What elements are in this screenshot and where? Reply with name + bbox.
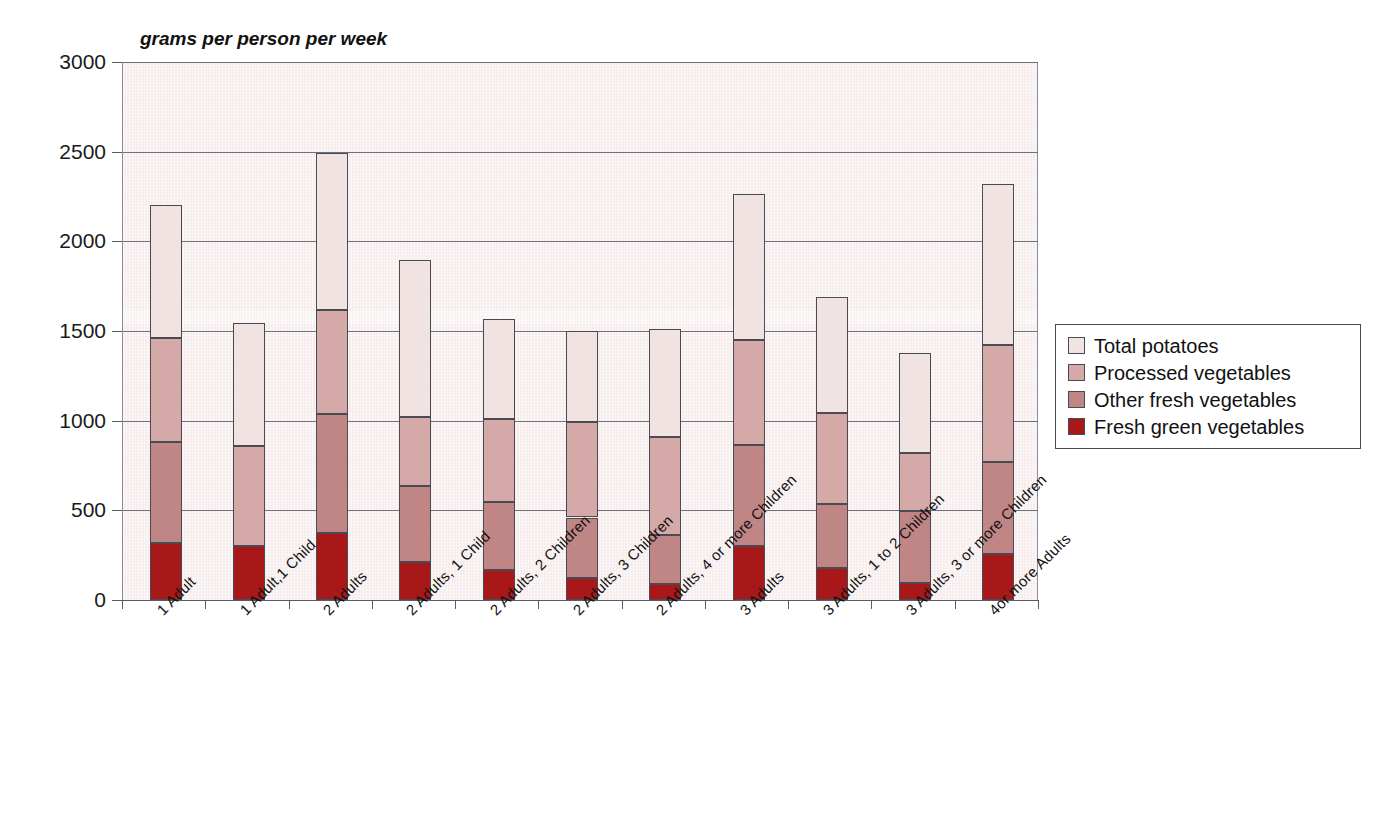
bar-stack[interactable]	[316, 62, 348, 600]
bar-stack[interactable]	[816, 62, 848, 600]
bar-segment[interactable]	[733, 194, 765, 340]
bar-segment[interactable]	[899, 353, 931, 453]
y-tick-label-2500: 2500	[40, 141, 106, 162]
bar-segment[interactable]	[483, 319, 515, 419]
chart-container: grams per person per week 05001000150020…	[0, 0, 1391, 817]
x-tick-mark	[205, 600, 206, 609]
y-tick-label-500: 500	[40, 499, 106, 520]
legend-swatch-icon	[1068, 337, 1085, 354]
bar-segment[interactable]	[982, 184, 1014, 345]
x-tick-mark	[955, 600, 956, 609]
y-tick-label-3000: 3000	[40, 51, 106, 72]
x-tick-mark	[372, 600, 373, 609]
legend-item[interactable]: Total potatoes	[1056, 332, 1360, 359]
bar-stack[interactable]	[399, 62, 431, 600]
y-axis-title: grams per person per week	[140, 28, 387, 50]
bar-stack[interactable]	[483, 62, 515, 600]
y-tick-mark-1000	[112, 421, 122, 422]
y-tick-mark-3000	[112, 62, 122, 63]
y-tick-mark-500	[112, 510, 122, 511]
legend-item[interactable]: Fresh green vegetables	[1056, 413, 1360, 440]
bar-segment[interactable]	[816, 297, 848, 413]
bar-segment[interactable]	[566, 422, 598, 517]
y-tick-label-1000: 1000	[40, 410, 106, 431]
legend-label: Other fresh vegetables	[1094, 390, 1296, 410]
x-tick-mark	[871, 600, 872, 609]
x-tick-mark	[538, 600, 539, 609]
y-tick-label-0: 0	[40, 589, 106, 610]
bar-segment[interactable]	[399, 260, 431, 417]
y-tick-mark-2500	[112, 152, 122, 153]
bar-segment[interactable]	[816, 413, 848, 504]
x-tick-mark	[1038, 600, 1039, 609]
x-tick-mark	[289, 600, 290, 609]
bar-segment[interactable]	[150, 442, 182, 542]
legend-item[interactable]: Processed vegetables	[1056, 359, 1360, 386]
y-tick-mark-0	[112, 600, 122, 601]
x-tick-mark	[788, 600, 789, 609]
y-axis-line	[122, 62, 123, 601]
bar-stack[interactable]	[150, 62, 182, 600]
bar-segment[interactable]	[233, 323, 265, 446]
bar-segment[interactable]	[733, 340, 765, 445]
bar-segment[interactable]	[316, 153, 348, 311]
x-tick-mark	[622, 600, 623, 609]
bar-segment[interactable]	[150, 338, 182, 442]
bar-segment[interactable]	[399, 486, 431, 562]
bar-segment[interactable]	[233, 446, 265, 546]
bar-segment[interactable]	[316, 310, 348, 414]
bar-segment[interactable]	[399, 417, 431, 486]
legend-label: Processed vegetables	[1094, 363, 1291, 383]
bar-stack[interactable]	[233, 62, 265, 600]
y-tick-label-2000: 2000	[40, 230, 106, 251]
x-tick-mark	[705, 600, 706, 609]
y-tick-mark-2000	[112, 241, 122, 242]
legend-rows: Total potatoesProcessed vegetablesOther …	[1056, 332, 1360, 440]
bar-segment[interactable]	[982, 345, 1014, 462]
legend-item[interactable]: Other fresh vegetables	[1056, 386, 1360, 413]
bar-segment[interactable]	[316, 414, 348, 532]
legend-label: Total potatoes	[1094, 336, 1219, 356]
bar-segment[interactable]	[483, 419, 515, 502]
legend: Total potatoesProcessed vegetablesOther …	[1055, 324, 1361, 449]
bar-segment[interactable]	[566, 331, 598, 422]
y-tick-mark-1500	[112, 331, 122, 332]
legend-label: Fresh green vegetables	[1094, 417, 1304, 437]
x-tick-mark	[455, 600, 456, 609]
x-tick-mark	[122, 600, 123, 609]
y-tick-label-1500: 1500	[40, 320, 106, 341]
legend-swatch-icon	[1068, 418, 1085, 435]
legend-swatch-icon	[1068, 391, 1085, 408]
bar-segment[interactable]	[150, 205, 182, 339]
bar-segment[interactable]	[649, 329, 681, 437]
bar-segment[interactable]	[816, 504, 848, 568]
legend-swatch-icon	[1068, 364, 1085, 381]
